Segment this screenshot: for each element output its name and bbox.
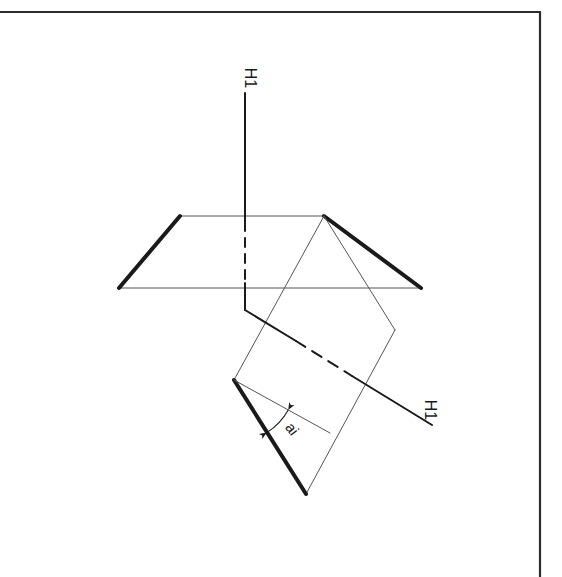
inclined-projection-plane-bold-edge-0 bbox=[234, 380, 306, 494]
ground-axis-near-visible bbox=[245, 310, 296, 341]
ground-axis-hidden bbox=[296, 341, 352, 376]
inclined-projection-plane bbox=[234, 216, 395, 494]
ground-line-axis bbox=[245, 310, 432, 425]
drawing-vector-surface: H1 H1 ai bbox=[0, 0, 562, 577]
horizontal-projection-plane bbox=[119, 216, 421, 288]
horizontal-projection-plane-bold-edge-1 bbox=[324, 216, 421, 288]
vertical-axis-label: H1 bbox=[242, 68, 259, 89]
inclined-projection-plane-thin-edge-2 bbox=[324, 216, 395, 330]
horizontal-projection-plane-bold-edge-0 bbox=[119, 216, 180, 288]
ground-axis-label: H1 bbox=[422, 400, 439, 421]
angle-label: ai bbox=[282, 419, 303, 439]
page-border-frame bbox=[0, 12, 540, 577]
ground-axis-far-visible bbox=[352, 376, 432, 425]
inclined-projection-plane-thin-edge-0 bbox=[234, 216, 324, 380]
technical-drawing-canvas: H1 H1 ai bbox=[0, 0, 562, 577]
